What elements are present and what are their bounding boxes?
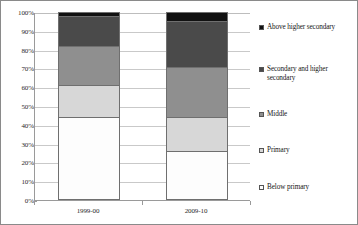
bar-segment[interactable] xyxy=(166,67,228,118)
legend-label: Primary xyxy=(267,146,289,155)
y-tick-label: 20% xyxy=(4,159,34,167)
bar-segment[interactable] xyxy=(58,46,120,85)
legend-swatch-icon xyxy=(259,148,264,153)
x-tick-label: 1999-00 xyxy=(34,207,142,215)
bar-segment[interactable] xyxy=(58,16,120,46)
legend-swatch-icon xyxy=(259,112,264,117)
legend-label: Middle xyxy=(267,110,287,119)
y-tick-label: 80% xyxy=(4,47,34,55)
chart-legend: Above higher secondarySecondary and high… xyxy=(259,13,355,201)
plot-area xyxy=(34,13,250,201)
x-axis: 1999-002009-10 xyxy=(34,201,250,223)
x-tick-label: 2009-10 xyxy=(142,207,250,215)
bar-segment[interactable] xyxy=(58,85,120,117)
y-tick-label: 30% xyxy=(4,141,34,149)
bar-segment[interactable] xyxy=(166,12,228,21)
legend-swatch-icon xyxy=(259,25,264,30)
y-tick-label: 10% xyxy=(4,178,34,186)
bar-column[interactable] xyxy=(166,13,228,200)
legend-label: Above higher secondary xyxy=(267,23,335,32)
bar-segment[interactable] xyxy=(166,151,228,200)
legend-item[interactable]: Above higher secondary xyxy=(259,23,355,32)
legend-swatch-icon xyxy=(259,67,264,72)
legend-swatch-icon xyxy=(259,185,264,190)
y-axis: 0%10%20%30%40%50%60%70%80%90%100% xyxy=(1,13,34,201)
bar-stack xyxy=(58,12,120,200)
chart-container: 0%10%20%30%40%50%60%70%80%90%100% 1999-0… xyxy=(0,0,358,225)
bar-segment[interactable] xyxy=(166,21,228,66)
legend-label: Below primary xyxy=(267,183,309,192)
legend-item[interactable]: Middle xyxy=(259,110,355,119)
y-tick-label: 70% xyxy=(4,65,34,73)
x-tick-mark xyxy=(34,201,35,205)
y-tick-label: 50% xyxy=(4,103,34,111)
legend-item[interactable]: Primary xyxy=(259,146,355,155)
y-tick-label: 100% xyxy=(4,9,34,17)
x-tick-mark xyxy=(250,201,251,205)
y-tick-label: 60% xyxy=(4,84,34,92)
x-tick-mark xyxy=(142,201,143,205)
legend-item[interactable]: Below primary xyxy=(259,183,355,192)
bar-segment[interactable] xyxy=(166,117,228,151)
legend-label: Secondary and higher secondary xyxy=(267,65,355,82)
y-tick-label: 40% xyxy=(4,122,34,130)
legend-item[interactable]: Secondary and higher secondary xyxy=(259,65,355,82)
bar-segment[interactable] xyxy=(58,117,120,200)
y-tick-label: 90% xyxy=(4,28,34,36)
y-tick-label: 0% xyxy=(4,197,34,205)
bar-segment[interactable] xyxy=(58,12,120,16)
bar-column[interactable] xyxy=(58,13,120,200)
bar-stack xyxy=(166,12,228,200)
